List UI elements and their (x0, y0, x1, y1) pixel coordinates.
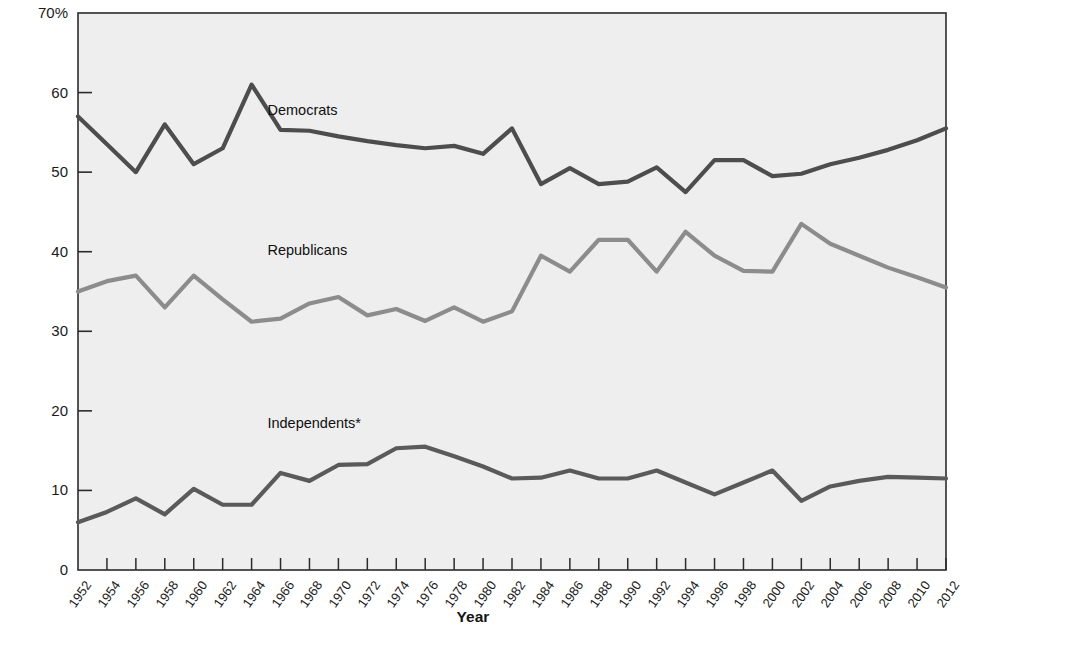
series-label-independents: Independents* (267, 415, 361, 431)
series-label-democrats: Democrats (267, 102, 337, 118)
chart-figure: Percent of Respondents Identifying with … (0, 0, 1068, 646)
series-label-republicans: Republicans (267, 242, 347, 258)
series-annotations: DemocratsRepublicansIndependents* (0, 0, 1068, 646)
